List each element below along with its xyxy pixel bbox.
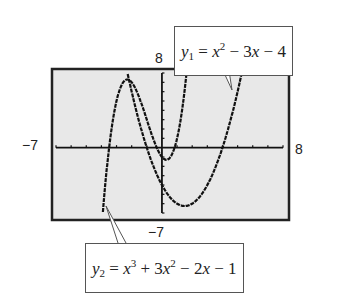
y2-rest: + 3 [136,259,163,278]
graph-figure: 8 −7 −7 8 y1 = x2 − 3x − 4 y2 = x3 + 3x2… [0,0,355,296]
y-min-label: −7 [148,224,164,240]
y1-var: y [181,42,189,61]
y2-callout: y2 = x3 + 3x2 − 2x − 1 [85,243,244,293]
y1-eq: = [194,42,212,61]
y-max-label: 8 [155,50,163,66]
y2-eq: = [105,259,123,278]
y2-var: y [92,259,100,278]
y1-rest: − 3 [225,42,252,61]
y2-x: x [123,259,131,278]
y1-callout: y1 = x2 − 3x − 4 [174,26,293,76]
x-max-label: 8 [295,141,303,157]
y2-tail: − 1 [210,259,237,278]
y1-tail: − 4 [259,42,286,61]
y2-mid: − 2 [176,259,203,278]
y1-x: x [212,42,220,61]
x-min-label: −7 [22,137,38,153]
y2-x3: x [202,259,210,278]
